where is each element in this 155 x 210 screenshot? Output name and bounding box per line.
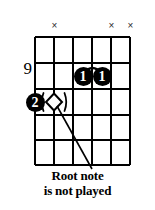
- finger-dot-2-string-6: 2: [26, 93, 45, 112]
- caption-line-1: Root note: [0, 168, 155, 183]
- finger-dot-1-string-2: 1: [93, 67, 112, 86]
- root-note-diamond-icon: [46, 94, 62, 111]
- chord-diagram: 9 × × × 1: [0, 0, 155, 210]
- caption-line-2: is not played: [0, 183, 155, 198]
- caption: Root note is not played: [0, 168, 155, 198]
- finger-dot-1-string-3: 1: [74, 67, 93, 86]
- root-note-right-paren: [65, 93, 67, 111]
